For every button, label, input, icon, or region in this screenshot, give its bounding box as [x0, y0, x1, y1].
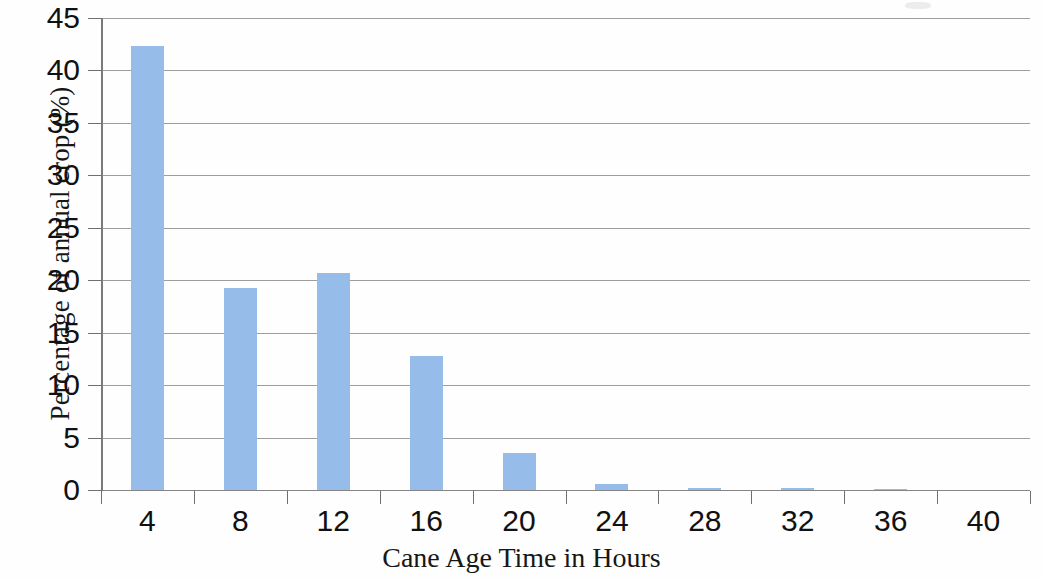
x-axis-tick-label: 36	[851, 506, 931, 536]
y-axis-tick-label: 45	[0, 3, 92, 33]
gridline	[101, 280, 1030, 281]
y-axis-tick-label: 0	[0, 475, 92, 505]
bar	[131, 46, 164, 490]
y-axis-tick-label: 25	[0, 213, 92, 243]
gridline	[101, 70, 1030, 71]
gridline	[101, 175, 1030, 176]
y-axis-tick-label: 10	[0, 370, 92, 400]
x-axis-tick-label: 20	[479, 506, 559, 536]
bar	[224, 288, 257, 490]
x-axis-tick-mark	[658, 491, 659, 504]
y-axis-tick-mark	[88, 490, 102, 491]
x-axis-tick-mark	[751, 491, 752, 504]
bar	[781, 488, 814, 490]
y-axis-tick-mark	[88, 438, 102, 439]
x-axis-tick-mark	[937, 491, 938, 504]
x-axis-tick-mark	[287, 491, 288, 504]
x-axis-tick-label: 24	[572, 506, 652, 536]
x-axis-title: Cane Age Time in Hours	[0, 542, 1043, 574]
y-axis-tick-mark	[88, 123, 102, 124]
scan-artifact	[905, 2, 931, 9]
x-axis-tick-label: 40	[944, 506, 1024, 536]
x-axis-tick-label: 16	[386, 506, 466, 536]
y-axis-tick-mark	[88, 18, 102, 19]
x-axis-tick-mark	[101, 491, 102, 504]
x-axis-tick-mark	[380, 491, 381, 504]
y-axis-tick-label: 5	[0, 423, 92, 453]
x-axis-tick-label: 32	[758, 506, 838, 536]
y-axis-tick-mark	[88, 385, 102, 386]
bar	[410, 356, 443, 490]
x-axis-tick-label: 8	[200, 506, 280, 536]
y-axis-tick-label: 20	[0, 265, 92, 295]
x-axis-tick-mark	[844, 491, 845, 504]
bar	[503, 453, 536, 490]
bar	[317, 273, 350, 490]
gridline	[101, 18, 1030, 19]
gridline	[101, 228, 1030, 229]
y-axis-tick-mark	[88, 228, 102, 229]
y-axis-tick-label: 15	[0, 318, 92, 348]
gridline	[101, 123, 1030, 124]
y-axis-tick-label: 30	[0, 160, 92, 190]
x-axis-tick-mark	[566, 491, 567, 504]
y-axis-tick-labels: 051015202530354045	[0, 0, 92, 578]
y-axis-tick-label: 40	[0, 55, 92, 85]
x-axis-tick-label: 4	[107, 506, 187, 536]
x-axis-tick-label: 12	[293, 506, 373, 536]
x-axis-tick-mark	[473, 491, 474, 504]
y-axis-tick-mark	[88, 333, 102, 334]
x-axis-tick-mark	[194, 491, 195, 504]
bar-chart-figure: Percentage of annual crop (%) 0510152025…	[0, 0, 1043, 578]
x-axis-tick-label: 28	[665, 506, 745, 536]
y-axis-tick-label: 35	[0, 108, 92, 138]
bar	[688, 488, 721, 490]
bar	[595, 484, 628, 490]
plot-area	[101, 18, 1030, 490]
bar	[874, 489, 907, 490]
y-axis-tick-mark	[88, 70, 102, 71]
y-axis-tick-mark	[88, 175, 102, 176]
y-axis-tick-mark	[88, 280, 102, 281]
x-axis-tick-mark	[1030, 491, 1031, 504]
